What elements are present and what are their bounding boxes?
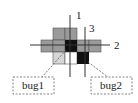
bug2-label: bug2 <box>100 79 122 91</box>
line-3-label: 3 <box>89 22 95 34</box>
bug-grid-diagram: 1 2 3 bug1 bug2 <box>0 0 138 103</box>
bug1-label: bug1 <box>22 79 44 91</box>
line-2-label: 2 <box>114 39 120 51</box>
white-cell <box>65 52 77 64</box>
vertical-gray-block <box>53 28 77 40</box>
bug1-cell <box>65 40 77 52</box>
bug2-cell <box>77 52 89 64</box>
bug2-pointer <box>88 62 108 77</box>
line-1-label: 1 <box>76 9 82 21</box>
